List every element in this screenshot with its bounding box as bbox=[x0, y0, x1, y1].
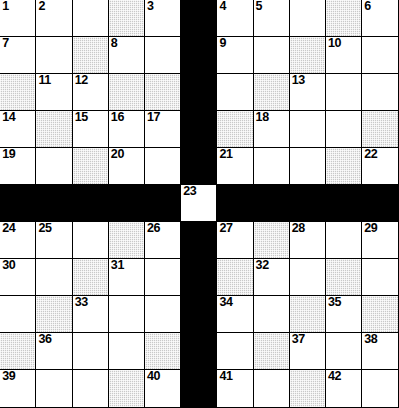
grid-cell[interactable]: 31 bbox=[108, 258, 146, 296]
grid-cell-shaded[interactable] bbox=[361, 110, 399, 148]
grid-cell-shaded[interactable] bbox=[0, 73, 37, 111]
grid-cell-shaded[interactable] bbox=[108, 73, 146, 111]
grid-cell[interactable]: 17 bbox=[144, 110, 182, 148]
grid-cell[interactable]: 33 bbox=[72, 295, 110, 333]
grid-cell-shaded[interactable] bbox=[325, 147, 363, 185]
grid-cell-shaded[interactable] bbox=[108, 369, 146, 407]
grid-cell[interactable] bbox=[361, 258, 399, 296]
grid-cell[interactable] bbox=[72, 369, 110, 407]
grid-cell-shaded[interactable] bbox=[289, 369, 327, 407]
grid-cell[interactable] bbox=[72, 221, 110, 259]
grid-cell[interactable] bbox=[72, 332, 110, 370]
grid-cell[interactable] bbox=[361, 369, 399, 407]
grid-cell[interactable] bbox=[144, 258, 182, 296]
grid-cell[interactable]: 36 bbox=[35, 332, 73, 370]
grid-cell-shaded[interactable] bbox=[72, 36, 110, 74]
grid-cell[interactable] bbox=[289, 110, 327, 148]
grid-cell[interactable]: 29 bbox=[361, 221, 399, 259]
grid-cell[interactable] bbox=[361, 36, 399, 74]
grid-cell[interactable]: 14 bbox=[0, 110, 37, 148]
grid-cell[interactable]: 11 bbox=[35, 73, 73, 111]
grid-cell[interactable]: 37 bbox=[289, 332, 327, 370]
grid-cell[interactable]: 9 bbox=[216, 36, 254, 74]
grid-cell[interactable] bbox=[144, 295, 182, 333]
grid-cell-shaded[interactable] bbox=[216, 258, 254, 296]
grid-cell[interactable]: 34 bbox=[216, 295, 254, 333]
grid-cell-shaded[interactable] bbox=[108, 221, 146, 259]
grid-cell[interactable]: 3 bbox=[144, 0, 182, 38]
grid-cell[interactable]: 30 bbox=[0, 258, 37, 296]
grid-cell[interactable] bbox=[325, 110, 363, 148]
grid-cell[interactable] bbox=[289, 258, 327, 296]
grid-cell-shaded[interactable] bbox=[144, 332, 182, 370]
grid-cell[interactable]: 7 bbox=[0, 36, 37, 74]
grid-cell[interactable]: 22 bbox=[361, 147, 399, 185]
grid-cell[interactable] bbox=[325, 221, 363, 259]
grid-cell-shaded[interactable] bbox=[253, 221, 291, 259]
grid-cell-shaded[interactable] bbox=[253, 73, 291, 111]
grid-cell-shaded[interactable] bbox=[253, 332, 291, 370]
grid-cell[interactable]: 12 bbox=[72, 73, 110, 111]
grid-cell-shaded[interactable] bbox=[361, 295, 399, 333]
grid-cell-shaded[interactable] bbox=[289, 295, 327, 333]
grid-cell[interactable] bbox=[144, 147, 182, 185]
grid-cell-shaded[interactable] bbox=[0, 332, 37, 370]
grid-cell[interactable]: 27 bbox=[216, 221, 254, 259]
grid-cell[interactable]: 21 bbox=[216, 147, 254, 185]
grid-cell-shaded[interactable] bbox=[325, 0, 363, 38]
grid-cell[interactable] bbox=[35, 36, 73, 74]
grid-cell[interactable]: 1 bbox=[0, 0, 37, 38]
grid-cell[interactable] bbox=[325, 332, 363, 370]
grid-cell[interactable]: 42 bbox=[325, 369, 363, 407]
grid-cell[interactable] bbox=[325, 73, 363, 111]
grid-cell[interactable] bbox=[108, 295, 146, 333]
grid-cell[interactable] bbox=[289, 0, 327, 38]
grid-cell[interactable]: 25 bbox=[35, 221, 73, 259]
grid-cell-shaded[interactable] bbox=[108, 0, 146, 38]
grid-cell[interactable]: 38 bbox=[361, 332, 399, 370]
grid-cell[interactable] bbox=[108, 332, 146, 370]
grid-cell-shaded[interactable] bbox=[35, 110, 73, 148]
grid-cell[interactable] bbox=[35, 147, 73, 185]
grid-cell[interactable]: 39 bbox=[0, 369, 37, 407]
grid-cell[interactable]: 24 bbox=[0, 221, 37, 259]
grid-cell[interactable] bbox=[216, 332, 254, 370]
grid-cell[interactable] bbox=[289, 147, 327, 185]
grid-cell[interactable]: 2 bbox=[35, 0, 73, 38]
grid-cell[interactable]: 19 bbox=[0, 147, 37, 185]
grid-cell[interactable]: 28 bbox=[289, 221, 327, 259]
grid-cell[interactable]: 5 bbox=[253, 0, 291, 38]
grid-cell[interactable] bbox=[253, 295, 291, 333]
grid-cell[interactable] bbox=[253, 147, 291, 185]
grid-cell-shaded[interactable] bbox=[35, 295, 73, 333]
grid-cell[interactable]: 41 bbox=[216, 369, 254, 407]
grid-cell[interactable] bbox=[216, 73, 254, 111]
grid-cell[interactable] bbox=[144, 36, 182, 74]
grid-cell[interactable]: 18 bbox=[253, 110, 291, 148]
grid-cell[interactable] bbox=[72, 0, 110, 38]
grid-cell[interactable] bbox=[361, 73, 399, 111]
grid-cell[interactable]: 40 bbox=[144, 369, 182, 407]
grid-cell[interactable]: 10 bbox=[325, 36, 363, 74]
grid-cell[interactable] bbox=[35, 369, 73, 407]
grid-cell[interactable]: 15 bbox=[72, 110, 110, 148]
grid-cell[interactable]: 20 bbox=[108, 147, 146, 185]
grid-cell-shaded[interactable] bbox=[72, 258, 110, 296]
grid-cell-shaded[interactable] bbox=[216, 110, 254, 148]
grid-cell[interactable] bbox=[253, 369, 291, 407]
grid-cell[interactable]: 23 bbox=[180, 184, 218, 222]
grid-cell[interactable]: 13 bbox=[289, 73, 327, 111]
grid-cell[interactable]: 4 bbox=[216, 0, 254, 38]
grid-cell-shaded[interactable] bbox=[289, 36, 327, 74]
grid-cell[interactable] bbox=[35, 258, 73, 296]
grid-cell-shaded[interactable] bbox=[325, 258, 363, 296]
grid-cell[interactable]: 16 bbox=[108, 110, 146, 148]
grid-cell-shaded[interactable] bbox=[144, 73, 182, 111]
grid-cell-shaded[interactable] bbox=[72, 147, 110, 185]
grid-cell[interactable]: 35 bbox=[325, 295, 363, 333]
grid-cell[interactable]: 32 bbox=[253, 258, 291, 296]
grid-cell[interactable]: 6 bbox=[361, 0, 399, 38]
grid-cell[interactable]: 26 bbox=[144, 221, 182, 259]
grid-cell[interactable] bbox=[0, 295, 37, 333]
grid-cell[interactable]: 8 bbox=[108, 36, 146, 74]
